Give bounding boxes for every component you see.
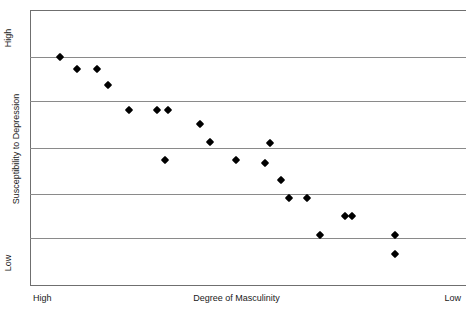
data-point [261, 159, 269, 167]
x-axis-labels: High Degree of Masculinity Low [0, 292, 473, 306]
data-point [206, 138, 214, 146]
gridline [30, 285, 466, 286]
data-point [196, 120, 204, 128]
data-point [277, 176, 285, 184]
gridline [30, 101, 466, 102]
plot-area [30, 10, 466, 285]
x-axis-tick-low: Low [444, 292, 461, 304]
clipped-chart-title [130, 0, 360, 2]
y-axis-tick-high: High [3, 21, 13, 55]
data-point [161, 156, 169, 164]
data-point [285, 194, 293, 202]
data-point [391, 250, 399, 258]
gridline [30, 57, 466, 58]
gridline [30, 194, 466, 195]
data-point [164, 106, 172, 114]
data-point [93, 65, 101, 73]
gridline [30, 148, 466, 149]
x-axis-title: Degree of Masculinity [0, 292, 473, 304]
data-point [153, 106, 161, 114]
y-axis-title: Susceptibility to Depression [11, 49, 21, 249]
data-point [125, 106, 133, 114]
scatter-chart-figure: Susceptibility to Depression High Low Hi… [0, 0, 473, 314]
data-point [232, 156, 240, 164]
y-axis-tick-low: Low [3, 246, 13, 280]
data-point [303, 194, 311, 202]
data-point [266, 139, 274, 147]
data-point [73, 65, 81, 73]
data-point [104, 81, 112, 89]
gridline [30, 10, 466, 11]
gridline [30, 238, 466, 239]
data-point [348, 212, 356, 220]
data-point [56, 53, 64, 61]
